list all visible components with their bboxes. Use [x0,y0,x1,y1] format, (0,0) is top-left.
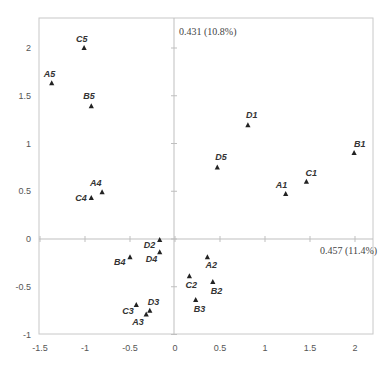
triangle-marker-icon [147,308,152,313]
point-label: D5 [215,152,227,162]
data-point: B5 [83,91,95,108]
data-points: C5A5B5A4C4D2D4B4C3D3A3A2C2B2B3D1D5B1C1A1 [43,34,366,327]
point-label: D2 [144,240,156,250]
data-point: C5 [76,34,88,50]
point-label: A2 [204,260,217,270]
y-tick-label: -1 [23,330,31,340]
point-label: D3 [148,297,160,307]
axis-ticks: -1.5-1-0.500.511.52-1-0.500.511.52 [15,43,357,353]
point-label: B1 [354,139,366,149]
point-label: A5 [43,69,56,79]
data-point: C3 [122,302,139,316]
scatter-chart: -1.5-1-0.500.511.52-1-0.500.511.52 C5A5B… [0,0,391,367]
data-point: C4 [75,193,94,203]
triangle-marker-icon [89,195,94,200]
point-label: C1 [305,168,317,178]
data-point: D1 [245,110,257,127]
point-label: B4 [114,257,126,267]
y-tick-label: -0.5 [15,282,31,292]
y-tick-label: 0.5 [18,186,31,196]
plot-frame [39,18,373,334]
data-point: B4 [114,254,133,267]
triangle-marker-icon [82,45,87,50]
data-point: D4 [146,249,163,264]
data-point: A4 [89,178,105,194]
data-point: B3 [193,297,205,314]
y-tick-label: 2 [26,43,31,53]
triangle-marker-icon [304,179,309,184]
vertical-axis-note: 0.431 (10.8%) [179,26,237,38]
triangle-marker-icon [215,164,220,169]
data-point: A3 [131,311,149,327]
point-label: B3 [194,304,206,314]
point-label: C3 [122,306,134,316]
x-tick-label: 1 [262,343,267,353]
data-point: B1 [352,139,366,155]
data-point: C2 [185,273,197,290]
horizontal-axis-note: 0.457 (11.4%) [320,245,377,257]
triangle-marker-icon [49,80,54,85]
triangle-marker-icon [100,189,105,194]
triangle-marker-icon [193,297,198,302]
triangle-marker-icon [127,254,132,259]
x-tick-label: 0 [172,343,177,353]
x-tick-label: -1 [81,343,89,353]
x-tick-label: -1.5 [32,343,48,353]
triangle-marker-icon [205,254,210,259]
point-label: D4 [146,254,158,264]
point-label: C2 [185,280,197,290]
y-tick-label: 1 [26,139,31,149]
point-label: B5 [83,91,95,101]
triangle-marker-icon [134,302,139,307]
data-point: B2 [210,279,222,296]
triangle-marker-icon [89,103,94,108]
data-point: D3 [147,297,159,313]
triangle-marker-icon [245,122,250,127]
point-label: A1 [275,180,288,190]
data-point: A2 [204,254,217,270]
data-point: A5 [43,69,56,85]
y-tick-label: 0 [26,234,31,244]
point-label: D1 [246,110,258,120]
y-tick-label: 1.5 [18,91,31,101]
point-label: C4 [75,193,87,203]
triangle-marker-icon [283,191,288,196]
point-label: A4 [89,178,102,188]
data-point: A1 [275,180,289,196]
data-point: D5 [215,152,228,169]
x-tick-label: -0.5 [122,343,138,353]
point-label: C5 [76,34,88,44]
triangle-marker-icon [210,279,215,284]
triangle-marker-icon [157,249,162,254]
data-point: C1 [304,168,317,184]
point-label: A3 [131,317,144,327]
x-tick-label: 0.5 [214,343,227,353]
triangle-marker-icon [352,150,357,155]
point-label: B2 [211,286,223,296]
triangle-marker-icon [187,273,192,278]
x-tick-label: 1.5 [304,343,317,353]
plot-border [39,18,373,334]
x-tick-label: 2 [352,343,357,353]
